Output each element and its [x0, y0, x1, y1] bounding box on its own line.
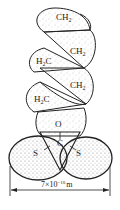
label-sulfur-left: S	[33, 148, 38, 158]
label-oxygen: O	[55, 119, 62, 129]
sulfur-right-lobe	[60, 137, 112, 179]
label-sulfur-right: S	[76, 148, 81, 158]
label-carbon: C	[57, 138, 63, 148]
molecule-diagram: CH2 CH2 H2C CH2 H2C O C S S 7×10−10m	[0, 0, 120, 210]
dimension-label: 7×10−10m	[41, 180, 73, 189]
